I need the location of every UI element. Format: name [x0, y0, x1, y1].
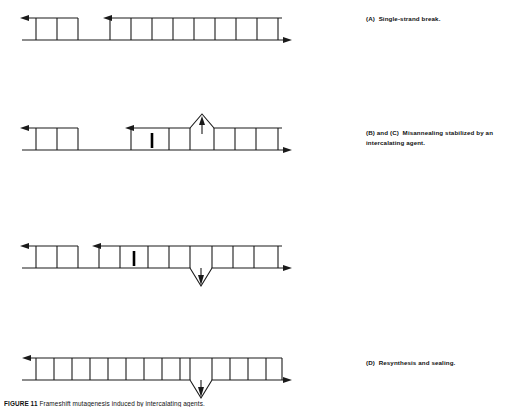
base-pair-rungs-fragment-2 [110, 18, 278, 40]
panel-a-caption: (A) Single-strand break. [366, 14, 515, 24]
panel-a-caption-line-1: (A) Single-strand break. [366, 14, 515, 24]
panel-b-caption: (B) and (C) Misannealing stabilized by a… [366, 128, 515, 147]
panel-a: (A) Single-strand break. [0, 0, 515, 70]
panel-d-caption-line-1: (D) Resynthesis and sealing. [366, 358, 515, 368]
top-strand-fragment-2-arrow-left [103, 15, 112, 21]
figure-caption-body: Frameshift mutagenesis induced by interc… [39, 400, 204, 407]
panel-b-caption-line-2: intercalating agent. [366, 138, 515, 148]
top-strand-fragment-1-arrow-left [20, 15, 29, 21]
bottom-strand-arrow-right [283, 377, 292, 383]
panel-a-diagram [0, 0, 340, 70]
base-pair-rungs-fragment-1 [36, 246, 78, 268]
top-strand-fragment-1-arrow-left [20, 243, 29, 249]
bottom-strand-with-notch [22, 380, 288, 398]
panel-b-diagram [0, 110, 340, 180]
base-pair-rungs-fragment-1 [36, 128, 78, 150]
base-pair-rungs-fragment-2 [99, 246, 278, 268]
panel-c [0, 228, 515, 298]
figure-root: (A) Single-strand break. [0, 0, 515, 410]
top-strand-fragment-1-arrow-left [20, 125, 29, 131]
bulge-up-arrow [199, 116, 205, 134]
figure-caption: FIGURE 11 Frameshift mutagenesis induced… [4, 400, 509, 407]
panel-b-caption-line-1: (B) and (C) Misannealing stabilized by a… [366, 128, 515, 138]
top-strand-fragment-2-arrow-left [125, 125, 134, 131]
bottom-strand-with-notch [22, 268, 288, 286]
bottom-strand-arrow-right [283, 265, 292, 271]
bottom-strand-arrow-right [283, 147, 292, 153]
panel-b: (B) and (C) Misannealing stabilized by a… [0, 110, 515, 180]
top-strand-arrow-left [22, 355, 31, 361]
bottom-strand-arrow-right [283, 37, 292, 43]
figure-number: FIGURE 11 [4, 400, 38, 407]
panel-d-caption: (D) Resynthesis and sealing. [366, 358, 515, 368]
top-strand-fragment-2-with-bulge [129, 114, 282, 128]
panel-c-diagram [0, 228, 340, 298]
base-pair-rungs [36, 358, 282, 380]
base-pair-rungs-fragment-1 [36, 18, 78, 40]
top-strand-fragment-2-arrow-left [92, 243, 101, 249]
